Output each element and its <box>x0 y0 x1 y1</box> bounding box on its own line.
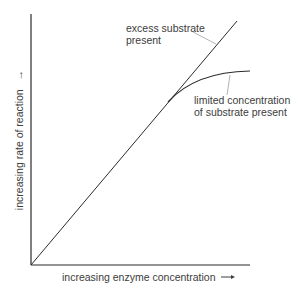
x-axis-arrow-icon <box>221 275 235 279</box>
excess-substrate-label: excess substrate present <box>126 22 205 46</box>
y-axis-label: increasing rate of reaction → <box>13 70 25 210</box>
y-axis-label-text: increasing rate of reaction <box>13 89 25 210</box>
limited-label-line1: limited concentration <box>194 94 290 106</box>
enzyme-concentration-diagram: excess substrate present limited concent… <box>0 0 297 293</box>
limited-substrate-label: limited concentration of substrate prese… <box>194 94 290 118</box>
y-axis-arrow-icon: → <box>13 70 25 81</box>
limited-leader-line <box>227 75 230 95</box>
excess-label-line1: excess substrate <box>126 22 205 34</box>
excess-label-line2: present <box>126 34 205 46</box>
limited-label-line2: of substrate present <box>194 106 290 118</box>
x-axis-label: increasing enzyme concentration <box>62 271 216 283</box>
excess-substrate-line <box>31 21 237 265</box>
